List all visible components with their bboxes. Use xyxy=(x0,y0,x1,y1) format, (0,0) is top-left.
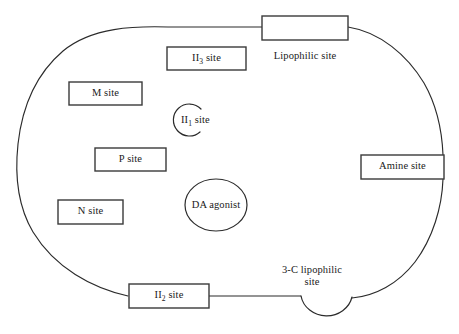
outline-top-right-arc xyxy=(348,27,443,155)
ii2-site-label: II2 site xyxy=(129,289,209,301)
semicircular-notch-shape xyxy=(301,296,352,316)
da-agonist-label: DA agonist xyxy=(181,199,251,211)
three-c-lipophilic-line2: site xyxy=(305,276,320,287)
ii2-site-label-text: II2 site xyxy=(155,289,184,300)
ii3-site-label: II3 site xyxy=(167,52,246,64)
ii1-site-label: II1 site xyxy=(181,114,239,126)
ii3-site-label-text: II3 site xyxy=(192,52,221,63)
lipophilic-site-label: Lipophilic site xyxy=(262,50,348,62)
outline-bottom-right-arc xyxy=(352,179,443,298)
m-site-label: M site xyxy=(69,87,142,99)
amine-site-label: Amine site xyxy=(361,160,444,172)
three-c-lipophilic-line1: 3-C lipophilic xyxy=(282,264,342,275)
lipophilic-site-box[interactable] xyxy=(262,16,348,40)
pharmacophore-diagram: Lipophilic site II3 site M site II1 site… xyxy=(0,0,459,334)
p-site-label: P site xyxy=(95,153,166,165)
three-c-lipophilic-site-label: 3-C lipophilic site xyxy=(267,264,357,289)
n-site-label: N site xyxy=(58,205,123,217)
ii1-site-label-text: II1 site xyxy=(181,114,210,125)
